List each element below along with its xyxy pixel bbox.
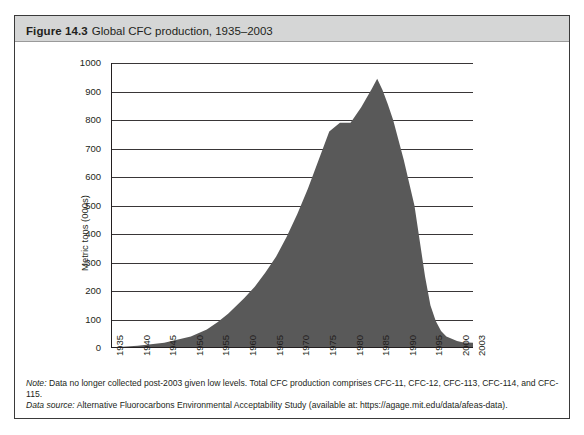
- y-axis-tick-label: 100: [67, 315, 101, 325]
- x-axis-tick-label: 1935: [115, 335, 125, 356]
- x-axis-tick-label: 1970: [301, 335, 311, 356]
- figure-caption: Figure 14.3Global CFC production, 1935–2…: [26, 21, 273, 39]
- y-axis-tick-label: 0: [67, 343, 101, 353]
- x-axis-tick-label: 1985: [381, 335, 391, 356]
- note-text: Data no longer collected post-2003 given…: [26, 378, 558, 399]
- x-axis-tick-label: 1975: [328, 335, 338, 356]
- source-text: Alternative Fluorocarbons Environmental …: [77, 400, 508, 410]
- x-axis-tick-label: 1945: [168, 335, 178, 356]
- figure-number: Figure 14.3: [26, 25, 88, 37]
- y-axis-tick-label: 800: [67, 115, 101, 125]
- source-label: Data source:: [26, 400, 75, 410]
- figure-header-band: Figure 14.3Global CFC production, 1935–2…: [15, 16, 569, 42]
- cfc-production-area-chart: [111, 63, 473, 348]
- x-axis-tick-label: 1950: [195, 335, 205, 356]
- figure-title: Global CFC production, 1935–2003: [92, 25, 273, 37]
- cfc-production-area: [111, 79, 473, 348]
- note-label: Note:: [26, 378, 47, 388]
- y-axis-title: Metric tons (000s): [79, 151, 90, 271]
- figure-container: Figure 14.3Global CFC production, 1935–2…: [14, 15, 570, 419]
- y-axis-tick-label: 900: [67, 87, 101, 97]
- x-axis-tick-label: 1990: [408, 335, 418, 356]
- x-axis-tick-label: 1965: [275, 335, 285, 356]
- x-axis-tick-label: 2000: [461, 335, 471, 356]
- x-axis-tick-label: 1940: [142, 335, 152, 356]
- x-axis-tick-label: 1955: [221, 335, 231, 356]
- y-axis-tick-label: 200: [67, 286, 101, 296]
- x-axis-tick-label: 1960: [248, 335, 258, 356]
- figure-note: Note: Data no longer collected post-2003…: [26, 378, 560, 400]
- x-axis-tick-label: 2003: [477, 335, 487, 356]
- x-axis-tick-label: 1980: [355, 335, 365, 356]
- figure-source: Data source: Alternative Fluorocarbons E…: [26, 400, 560, 411]
- chart-plot-area: [111, 63, 473, 348]
- x-axis-tick-label: 1995: [434, 335, 444, 356]
- y-axis-tick-label: 1000: [67, 58, 101, 68]
